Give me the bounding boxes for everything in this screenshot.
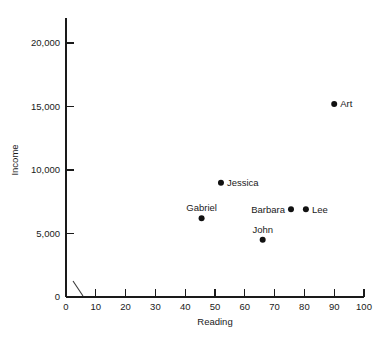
data-point-dot xyxy=(288,206,294,212)
data-point: John xyxy=(252,224,273,243)
x-tick-group: 0102030405060708090100 xyxy=(63,289,372,312)
x-tick-label: 70 xyxy=(269,301,280,312)
data-point: Gabriel xyxy=(186,202,217,221)
axis-break-slash-icon xyxy=(73,281,83,296)
data-point-dot xyxy=(218,180,224,186)
x-tick-label: 100 xyxy=(356,301,372,312)
scatter-plot-figure: 05,00010,00015,00020,000 010203040506070… xyxy=(0,0,387,338)
y-tick-group: 05,00010,00015,00020,000 xyxy=(31,37,74,302)
data-point-label: Art xyxy=(340,98,353,109)
x-tick-label: 90 xyxy=(329,301,340,312)
data-point-label: Barbara xyxy=(251,204,286,215)
x-tick-label: 20 xyxy=(120,301,131,312)
y-tick-label: 10,000 xyxy=(31,164,60,175)
y-tick-label: 0 xyxy=(55,291,60,302)
x-tick-label: 60 xyxy=(240,301,251,312)
data-point-label: Gabriel xyxy=(186,202,217,213)
data-point-label: Jessica xyxy=(227,177,259,188)
x-tick-label: 50 xyxy=(210,301,221,312)
y-axis-title: Income xyxy=(9,144,20,175)
x-tick-label: 80 xyxy=(299,301,310,312)
data-point-dot xyxy=(199,215,205,221)
y-tick-label: 15,000 xyxy=(31,101,60,112)
data-point: Barbara xyxy=(251,204,294,215)
data-point-label: John xyxy=(252,224,273,235)
data-point: Jessica xyxy=(218,177,259,188)
x-tick-label: 10 xyxy=(91,301,102,312)
x-axis-title: Reading xyxy=(197,316,232,327)
data-point-dot xyxy=(303,206,309,212)
data-point-group: ArtJessicaGabrielBarbaraLeeJohn xyxy=(186,98,352,242)
y-tick-label: 5,000 xyxy=(36,228,60,239)
x-tick-label: 30 xyxy=(150,301,161,312)
y-tick-label: 20,000 xyxy=(31,37,60,48)
data-point: Lee xyxy=(303,204,328,215)
data-point-dot xyxy=(331,101,337,107)
data-point-label: Lee xyxy=(312,204,328,215)
data-point: Art xyxy=(331,98,353,109)
data-point-dot xyxy=(260,237,266,243)
plot-canvas: 05,00010,00015,00020,000 010203040506070… xyxy=(0,0,387,338)
x-tick-label: 40 xyxy=(180,301,191,312)
x-tick-label: 0 xyxy=(63,301,68,312)
